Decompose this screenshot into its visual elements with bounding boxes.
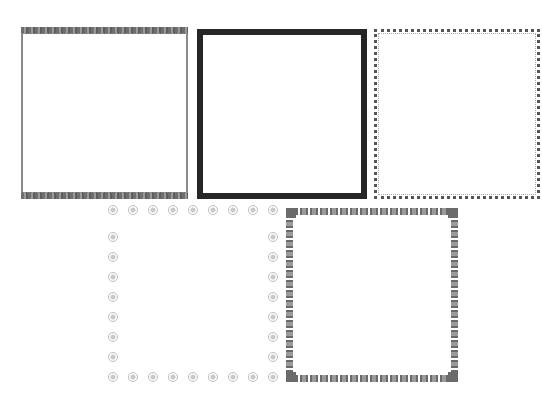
ornament-icon bbox=[128, 372, 138, 382]
ornament-icon bbox=[108, 292, 118, 302]
corner-block-icon bbox=[286, 208, 296, 218]
ornament-icon bbox=[268, 332, 278, 342]
ornament-icon bbox=[108, 205, 118, 215]
ornament-icon bbox=[168, 205, 178, 215]
ornament-icon bbox=[188, 372, 198, 382]
ornament-icon bbox=[148, 205, 158, 215]
ornament-icon bbox=[168, 372, 178, 382]
ornament-icon bbox=[148, 372, 158, 382]
ornament-icon bbox=[108, 332, 118, 342]
ornament-dots-border-frame[interactable] bbox=[108, 205, 278, 382]
ornament-icon bbox=[228, 205, 238, 215]
ornament-icon bbox=[108, 372, 118, 382]
ornament-icon bbox=[208, 205, 218, 215]
dotted-star-border-frame[interactable] bbox=[374, 29, 540, 199]
ornament-icon bbox=[268, 372, 278, 382]
ornament-icon bbox=[108, 252, 118, 262]
ornament-icon bbox=[208, 372, 218, 382]
thick-black-border-frame[interactable] bbox=[197, 29, 367, 199]
ornament-icon bbox=[248, 372, 258, 382]
chain-heart-border-frame[interactable] bbox=[286, 208, 458, 382]
ornament-icon bbox=[268, 232, 278, 242]
ornament-icon bbox=[108, 272, 118, 282]
corner-block-icon bbox=[286, 372, 296, 382]
ornament-icon bbox=[268, 205, 278, 215]
corner-block-icon bbox=[448, 208, 458, 218]
corner-block-icon bbox=[448, 372, 458, 382]
ornament-icon bbox=[188, 205, 198, 215]
ornament-icon bbox=[248, 205, 258, 215]
chain-left-edge bbox=[286, 218, 293, 372]
ornament-icon bbox=[108, 352, 118, 362]
chain-right-edge bbox=[451, 218, 458, 372]
wavy-top-edge bbox=[21, 27, 188, 34]
ornament-icon bbox=[268, 352, 278, 362]
ornament-icon bbox=[228, 372, 238, 382]
wavy-border-frame[interactable] bbox=[21, 27, 188, 199]
ornament-icon bbox=[108, 232, 118, 242]
ornament-icon bbox=[268, 272, 278, 282]
ornament-icon bbox=[268, 312, 278, 322]
ornament-icon bbox=[268, 292, 278, 302]
ornament-icon bbox=[108, 312, 118, 322]
wavy-bottom-edge bbox=[21, 192, 188, 199]
ornament-icon bbox=[268, 252, 278, 262]
ornament-icon bbox=[128, 205, 138, 215]
